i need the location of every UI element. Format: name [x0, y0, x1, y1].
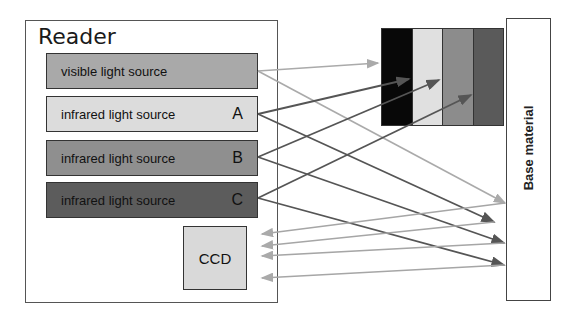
light-path-arrows — [0, 0, 565, 322]
